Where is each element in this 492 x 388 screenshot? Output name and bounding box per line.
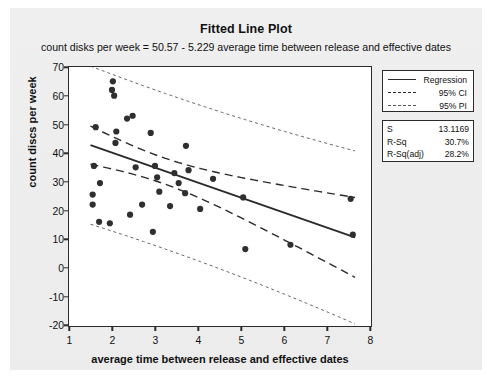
x-tick-mark <box>327 327 328 331</box>
x-tick-mark <box>198 327 199 331</box>
data-point <box>148 130 154 136</box>
data-point <box>348 196 354 202</box>
data-point <box>111 93 117 99</box>
y-axis-title: count discs per week <box>26 52 38 212</box>
y-tick-label: 70 <box>34 62 64 73</box>
y-tick-label: 0 <box>34 263 64 274</box>
x-tick-label: 2 <box>99 335 125 346</box>
prediction-interval-lower <box>91 224 355 324</box>
data-point <box>185 167 191 173</box>
x-tick-label: 4 <box>185 335 211 346</box>
data-point <box>133 164 139 170</box>
statistic-row: R-Sq(adj)28.2% <box>387 148 469 161</box>
data-point <box>156 189 162 195</box>
x-tick-label: 7 <box>314 335 340 346</box>
statistic-value: 28.2% <box>445 149 469 159</box>
x-tick-label: 8 <box>357 335 383 346</box>
x-tick-mark <box>284 327 285 331</box>
data-point <box>287 242 293 248</box>
x-tick-mark <box>69 327 70 331</box>
figure-panel: Fitted Line Plot count disks per week = … <box>10 8 482 370</box>
data-point <box>93 124 99 130</box>
data-point <box>350 232 356 238</box>
x-tick-mark <box>155 327 156 331</box>
data-point <box>90 191 96 197</box>
x-tick-mark <box>241 327 242 331</box>
data-point <box>154 174 160 180</box>
statistic-name: S <box>387 124 393 134</box>
data-point <box>90 202 96 208</box>
x-axis-tick-marks <box>68 327 372 332</box>
y-tick-label: 20 <box>34 205 64 216</box>
x-axis-title: average time between release and effecti… <box>68 353 372 365</box>
legend-line-swatch-icon <box>387 75 417 85</box>
legend-label: 95% PI <box>417 101 469 111</box>
statistics-box: S13.1169R-Sq30.7%R-Sq(adj)28.2% <box>382 120 474 162</box>
confidence-interval-upper <box>91 126 355 197</box>
data-point <box>183 143 189 149</box>
data-point <box>130 113 136 119</box>
y-tick-label: 40 <box>34 148 64 159</box>
legend-label: Regression <box>417 75 469 85</box>
statistic-value: 13.1169 <box>439 124 469 134</box>
data-point <box>96 219 102 225</box>
chart-subtitle: count disks per week = 50.57 - 5.229 ave… <box>10 41 482 53</box>
legend-line-swatch-icon <box>387 88 417 98</box>
data-point <box>171 170 177 176</box>
x-tick-mark <box>370 327 371 331</box>
y-tick-label: 60 <box>34 91 64 102</box>
data-point <box>109 87 115 93</box>
data-point <box>110 78 116 84</box>
legend-box: Regression95% CI95% PI <box>382 70 474 112</box>
data-point <box>107 220 113 226</box>
y-tick-label: -10 <box>34 291 64 302</box>
y-tick-label: 10 <box>34 234 64 245</box>
x-tick-mark <box>112 327 113 331</box>
plot-graphics <box>69 67 370 325</box>
legend-item: Regression <box>387 74 469 86</box>
data-point <box>242 246 248 252</box>
statistic-row: S13.1169 <box>387 123 469 136</box>
data-point <box>182 190 188 196</box>
data-point <box>167 203 173 209</box>
y-tick-label: 30 <box>34 177 64 188</box>
data-point <box>176 180 182 186</box>
data-point <box>240 194 246 200</box>
legend-label: 95% CI <box>417 88 469 98</box>
data-point <box>139 202 145 208</box>
data-point <box>97 180 103 186</box>
legend-item: 95% CI <box>387 87 469 99</box>
statistic-row: R-Sq30.7% <box>387 136 469 149</box>
data-point <box>210 176 216 182</box>
x-tick-label: 1 <box>56 335 82 346</box>
x-tick-label: 5 <box>228 335 254 346</box>
data-point <box>152 163 158 169</box>
data-point <box>197 206 203 212</box>
data-point <box>124 116 130 122</box>
data-point <box>127 212 133 218</box>
y-tick-label: 50 <box>34 119 64 130</box>
x-tick-label: 6 <box>271 335 297 346</box>
chart-title: Fitted Line Plot <box>10 22 482 36</box>
statistic-name: R-Sq(adj) <box>387 149 424 159</box>
x-tick-label: 3 <box>142 335 168 346</box>
prediction-interval-upper <box>91 67 355 151</box>
statistic-value: 30.7% <box>445 137 469 147</box>
confidence-interval-lower <box>91 164 355 277</box>
data-point <box>91 163 97 169</box>
y-tick-label: -20 <box>34 320 64 331</box>
plot-area <box>68 66 372 327</box>
data-point <box>113 128 119 134</box>
statistic-name: R-Sq <box>387 137 407 147</box>
legend-item: 95% PI <box>387 100 469 112</box>
data-point <box>112 140 118 146</box>
legend-line-swatch-icon <box>387 101 417 111</box>
data-point <box>150 229 156 235</box>
